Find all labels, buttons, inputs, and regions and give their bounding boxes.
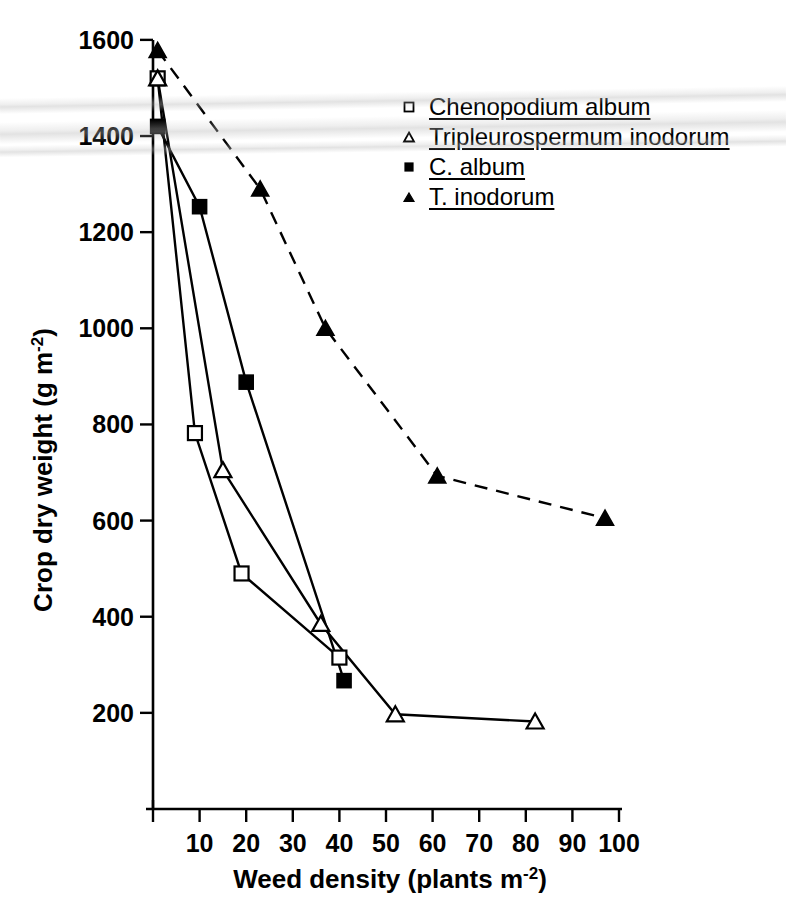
- marker-filled-triangle: [317, 320, 334, 335]
- open-square-icon: [398, 100, 420, 114]
- x-tick-label: 40: [325, 829, 353, 857]
- marker-filled-triangle: [597, 510, 614, 525]
- chart-figure: 1600140012001000800600400200 10203040506…: [0, 0, 786, 919]
- x-tick-label: 50: [372, 829, 400, 857]
- series-line-2: [158, 126, 344, 680]
- chart-legend: Chenopodium album Tripleurospermum inodo…: [398, 93, 758, 213]
- marker-open-square: [188, 426, 202, 440]
- marker-filled-triangle: [252, 181, 269, 196]
- legend-label: T. inodorum: [429, 183, 554, 211]
- legend-item-chenopodium-album: Chenopodium album: [398, 93, 758, 121]
- y-tick-label: 600: [92, 507, 134, 535]
- y-tick-label: 200: [92, 699, 134, 727]
- y-tick-label: 1400: [78, 122, 134, 150]
- x-tick-label: 20: [232, 829, 260, 857]
- x-tick-label: 60: [419, 829, 447, 857]
- marker-open-triangle: [312, 616, 329, 631]
- marker-filled-square: [239, 375, 253, 389]
- legend-item-t-inodorum: T. inodorum: [398, 183, 758, 211]
- y-axis-ticks: [140, 40, 153, 713]
- x-tick-label: 100: [598, 829, 640, 857]
- legend-item-c-album: C. album: [398, 153, 758, 181]
- filled-square-icon: [398, 160, 420, 174]
- legend-item-tripleurospermum-inodorum: Tripleurospermum inodorum: [398, 123, 758, 151]
- marker-filled-square: [151, 119, 165, 133]
- marker-filled-square: [337, 674, 351, 688]
- y-tick-label: 400: [92, 603, 134, 631]
- x-axis-tick-labels: 102030405060708090100: [186, 829, 640, 857]
- x-tick-label: 70: [465, 829, 493, 857]
- marker-filled-square: [193, 200, 207, 214]
- y-axis-title: Crop dry weight (g m-2): [28, 328, 58, 612]
- legend-label: Tripleurospermum inodorum: [429, 123, 730, 151]
- marker-open-square: [235, 566, 249, 580]
- y-tick-label: 1000: [78, 314, 134, 342]
- x-tick-label: 80: [512, 829, 540, 857]
- marker-open-square: [332, 651, 346, 665]
- x-axis-ticks: [153, 800, 619, 822]
- y-tick-label: 1200: [78, 218, 134, 246]
- x-tick-label: 30: [279, 829, 307, 857]
- open-triangle-icon: [398, 130, 420, 144]
- filled-triangle-icon: [398, 190, 420, 204]
- y-tick-label: 1600: [78, 26, 134, 54]
- x-axis-title: Weed density (plants m-2): [233, 864, 547, 894]
- y-axis-tick-labels: 1600140012001000800600400200: [78, 26, 134, 727]
- marker-filled-triangle: [429, 468, 446, 483]
- y-tick-label: 800: [92, 410, 134, 438]
- x-tick-label: 10: [186, 829, 214, 857]
- legend-label: Chenopodium album: [429, 93, 650, 121]
- x-tick-label: 90: [558, 829, 586, 857]
- marker-open-triangle: [214, 462, 231, 477]
- legend-label: C. album: [429, 153, 525, 181]
